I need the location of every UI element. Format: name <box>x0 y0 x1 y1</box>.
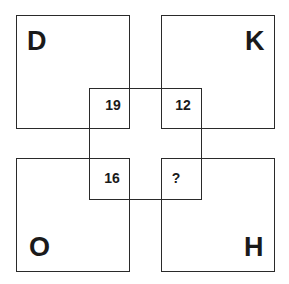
number-top-left: 19 <box>98 98 128 112</box>
number-bottom-left: 16 <box>97 171 127 185</box>
number-top-right: 12 <box>168 98 198 112</box>
letter-bottom-right: H <box>244 234 264 261</box>
letter-top-right: K <box>245 28 265 55</box>
letter-top-left: D <box>27 28 47 55</box>
letter-bottom-left: O <box>29 234 50 261</box>
missing-number-question-mark: ? <box>161 171 191 185</box>
